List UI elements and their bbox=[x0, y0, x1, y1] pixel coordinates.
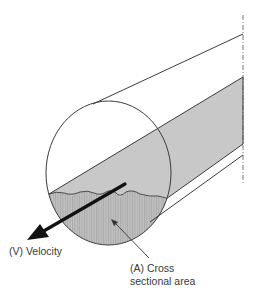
velocity-label: (V) Velocity bbox=[9, 245, 62, 258]
area-label-line1: (A) Cross bbox=[130, 262, 195, 275]
area-label-line2: sectional area bbox=[130, 275, 195, 288]
flow-band-inside-circle bbox=[49, 120, 172, 199]
velocity-label-text: (V) Velocity bbox=[9, 245, 62, 257]
cross-sectional-area-label: (A) Cross sectional area bbox=[130, 262, 195, 288]
